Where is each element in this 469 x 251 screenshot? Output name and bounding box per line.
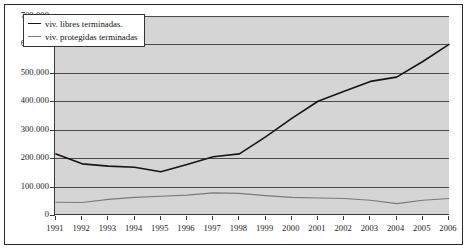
- x-axis-tick: [238, 216, 239, 220]
- x-axis-tick-label: 1995: [146, 223, 174, 233]
- x-axis-tick-label: 2006: [434, 223, 462, 233]
- x-axis-tick-label: 2001: [303, 223, 331, 233]
- x-axis-tick-label: 2004: [382, 223, 410, 233]
- chart-legend: viv. libres terminadas. viv. protegidas …: [23, 14, 145, 47]
- x-axis-tick: [107, 216, 108, 220]
- x-axis-tick: [134, 216, 135, 220]
- legend-label-protegidas: viv. protegidas terminadas: [45, 31, 138, 43]
- x-axis-tick-label: 1997: [198, 223, 226, 233]
- x-axis-tick-label: 1999: [251, 223, 279, 233]
- line-swatch-gray-icon: [28, 36, 41, 37]
- legend-item-protegidas: viv. protegidas terminadas: [28, 30, 138, 43]
- x-axis-tick: [291, 216, 292, 220]
- x-axis-tick: [160, 216, 161, 220]
- chart-screenshot: 0100.000200.000300.000400.000500.000600.…: [0, 0, 469, 251]
- x-axis-tick: [343, 216, 344, 220]
- x-axis-tick-label: 1994: [120, 223, 148, 233]
- x-axis-tick: [186, 216, 187, 220]
- x-axis-tick-label: 2000: [277, 223, 305, 233]
- x-axis-tick-label: 2003: [355, 223, 383, 233]
- line-swatch-dark-icon: [28, 23, 41, 24]
- x-axis-tick: [212, 216, 213, 220]
- x-axis-tick-label: 1993: [93, 223, 121, 233]
- legend-label-libres: viv. libres terminadas.: [45, 18, 123, 30]
- x-axis-tick-label: 2002: [329, 223, 357, 233]
- x-axis-tick: [265, 216, 266, 220]
- x-axis-tick: [317, 216, 318, 220]
- x-axis-tick: [81, 216, 82, 220]
- x-axis-tick: [422, 216, 423, 220]
- x-axis-tick: [55, 216, 56, 220]
- x-axis-tick-label: 1996: [172, 223, 200, 233]
- legend-item-libres: viv. libres terminadas.: [28, 17, 138, 30]
- x-axis-tick: [448, 216, 449, 220]
- x-axis-tick: [396, 216, 397, 220]
- x-axis-tick-label: 2005: [408, 223, 436, 233]
- x-axis-tick-label: 1992: [67, 223, 95, 233]
- x-axis-tick: [369, 216, 370, 220]
- x-axis-tick-label: 1991: [41, 223, 69, 233]
- x-axis-tick-label: 1998: [224, 223, 252, 233]
